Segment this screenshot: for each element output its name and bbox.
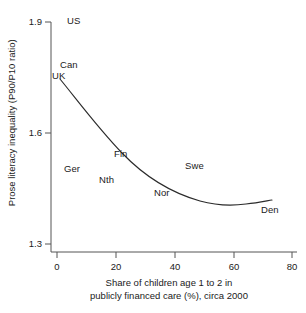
y-axis-title-wrapper: Prose literacy inequality (P90/P10 ratio… (0, 0, 18, 252)
data-label-uk: UK (52, 71, 65, 81)
chart-figure: Prose literacy inequality (P90/P10 ratio… (0, 0, 306, 313)
y-tick-label-1.6: 1.6 (12, 128, 42, 138)
data-label-den: Den (261, 205, 279, 215)
x-tick-label-20: 20 (101, 262, 131, 272)
y-tick-label-1.3: 1.3 (12, 239, 42, 249)
data-label-ger: Ger (64, 164, 80, 174)
data-label-us: US (67, 16, 80, 26)
data-label-nth: Nth (99, 175, 114, 185)
y-axis-title: Prose literacy inequality (P90/P10 ratio… (7, 8, 17, 238)
x-axis-title-line1: Share of children age 1 to 2 in (36, 276, 302, 289)
data-label-fin: Fin (114, 149, 128, 159)
data-label-nor: Nor (154, 188, 170, 198)
x-tick-label-80: 80 (277, 262, 306, 272)
y-tick-marks (45, 22, 51, 244)
data-label-can: Can (60, 60, 78, 70)
x-axis-title: Share of children age 1 to 2 in publicly… (36, 276, 302, 302)
x-tick-marks (57, 252, 292, 258)
y-tick-label-1.9: 1.9 (12, 17, 42, 27)
x-tick-label-60: 60 (219, 262, 249, 272)
x-tick-label-0: 0 (42, 262, 72, 272)
x-axis-title-line2: publicly financed care (%), circa 2000 (36, 289, 302, 302)
data-label-swe: Swe (185, 161, 204, 171)
x-tick-label-40: 40 (160, 262, 190, 272)
